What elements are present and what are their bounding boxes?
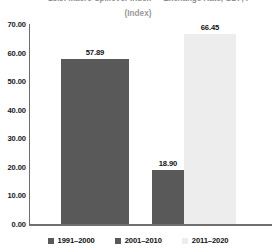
legend-label: 2001–2010 <box>125 236 162 245</box>
legend-item[interactable]: 2011–2020 <box>182 236 229 245</box>
chart-figure: 15.9: Macro Spillover Index — Exchange R… <box>0 0 276 252</box>
bar-series: 57.8918.9066.45 <box>30 24 272 224</box>
legend-swatch-icon <box>115 238 121 244</box>
y-tick-label: 60.00 <box>7 48 26 57</box>
legend-label: 1991–2000 <box>58 236 95 245</box>
bar-slot: 18.90 <box>152 24 184 224</box>
bar-value-label: 57.89 <box>86 48 105 57</box>
bar-value-label: 18.90 <box>159 159 178 168</box>
legend-label: 2011–2020 <box>192 236 229 245</box>
legend-item[interactable]: 1991–2000 <box>48 236 95 245</box>
y-tick-label: 50.00 <box>7 77 26 86</box>
y-tick-label: 20.00 <box>7 162 26 171</box>
chart-title-block: 15.9: Macro Spillover Index — Exchange R… <box>0 0 276 4</box>
chart-title: 15.9: Macro Spillover Index — Exchange R… <box>0 0 276 4</box>
y-tick-label: 10.00 <box>7 191 26 200</box>
x-axis-line <box>29 224 272 226</box>
plot-area: 0.0010.0020.0030.0040.0050.0060.0070.00 … <box>29 24 272 224</box>
legend-item[interactable]: 2001–2010 <box>115 236 162 245</box>
bar[interactable] <box>184 34 236 224</box>
chart-legend: 1991–20002001–20102011–2020 <box>0 236 276 245</box>
legend-swatch-icon <box>182 238 188 244</box>
bar[interactable] <box>61 59 129 224</box>
legend-swatch-icon <box>48 238 54 244</box>
bar-slot: 66.45 <box>184 24 236 224</box>
y-tick-label: 0.00 <box>12 220 26 229</box>
bar-slot: 57.89 <box>61 24 129 224</box>
chart-subtitle: (Index) <box>0 9 276 19</box>
y-tick-label: 70.00 <box>7 20 26 29</box>
bar[interactable] <box>152 170 184 224</box>
y-tick-label: 30.00 <box>7 134 26 143</box>
bar-value-label: 66.45 <box>201 23 220 32</box>
y-tick-label: 40.00 <box>7 105 26 114</box>
